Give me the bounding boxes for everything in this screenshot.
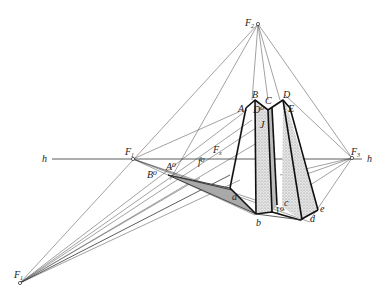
label-e: e <box>320 203 325 214</box>
label-d: d <box>310 213 316 224</box>
label-B0: B⁰ <box>147 169 157 180</box>
label-f0: f⁰ <box>198 156 205 167</box>
label-f2: F2 <box>244 17 254 29</box>
label-C: C <box>265 95 272 106</box>
vanishing-point-f1-low <box>18 281 21 284</box>
label-f1: F1 <box>124 146 134 158</box>
label-fx: Fx <box>212 144 222 156</box>
label-f3: F3 <box>350 146 360 158</box>
label-A0: A⁰ <box>165 161 176 172</box>
label-D0: D⁰ <box>252 104 264 115</box>
label-J: J <box>260 119 265 130</box>
label-f1-low: F1 <box>13 269 23 281</box>
label-h-right: h <box>367 153 372 164</box>
label-c: c <box>284 197 289 208</box>
label-A: A <box>237 103 245 114</box>
shaded-ground-face-2 <box>168 175 256 214</box>
label-h-left: h <box>42 153 47 164</box>
label-1-0: 1⁰ <box>275 205 284 216</box>
vanishing-point-f2 <box>256 22 259 25</box>
label-D: D <box>282 89 291 100</box>
perspective-diagram: h h F2 F1 F3 Fx F1 A B C D E D⁰ J a b c … <box>0 0 385 299</box>
label-a: a <box>232 191 237 202</box>
label-b: b <box>256 217 261 228</box>
label-B: B <box>252 89 258 100</box>
label-E: E <box>287 103 294 114</box>
